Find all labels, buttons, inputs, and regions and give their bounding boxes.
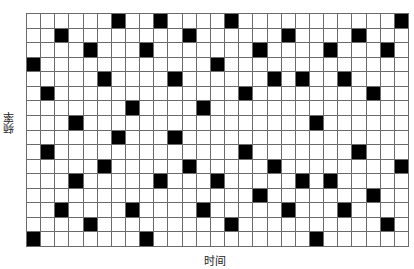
grid-cell [126, 174, 140, 189]
grid-cell [112, 189, 126, 204]
grid-cell [183, 174, 197, 189]
grid-cell [296, 218, 310, 233]
filled-cell [310, 232, 324, 247]
grid-cell [197, 72, 211, 87]
grid-cell [69, 203, 83, 218]
y-axis-label: 频率 [4, 112, 18, 134]
grid-cell [352, 101, 366, 116]
grid-cell [168, 189, 182, 204]
grid-cell [381, 232, 395, 247]
grid-cell [225, 43, 239, 58]
grid-cell [282, 145, 296, 160]
grid-cell [296, 29, 310, 44]
grid-cell [352, 87, 366, 102]
grid-cell [55, 72, 69, 87]
grid-cell [395, 87, 409, 102]
filled-cell [27, 232, 41, 247]
grid-cell [211, 218, 225, 233]
grid-cell [168, 43, 182, 58]
grid-cell [154, 116, 168, 131]
grid-cell [296, 101, 310, 116]
grid-cell [98, 101, 112, 116]
grid-cell [282, 131, 296, 146]
grid-cell [395, 145, 409, 160]
grid-cell [211, 131, 225, 146]
filled-cell [168, 72, 182, 87]
grid-cell [140, 203, 154, 218]
grid-cell [296, 189, 310, 204]
grid-cell [282, 14, 296, 29]
grid-cell [296, 58, 310, 73]
grid-cell [395, 101, 409, 116]
grid-cell [310, 87, 324, 102]
grid-cell [126, 116, 140, 131]
grid-cell [197, 14, 211, 29]
grid-cell [395, 72, 409, 87]
grid-cell [69, 87, 83, 102]
grid-cell [126, 189, 140, 204]
grid-cell [367, 14, 381, 29]
grid-cell [338, 232, 352, 247]
grid-cell [310, 131, 324, 146]
grid-cell [197, 160, 211, 175]
grid-cell [197, 29, 211, 44]
grid-cell [225, 189, 239, 204]
grid-cell [197, 145, 211, 160]
grid-cell [310, 14, 324, 29]
grid-cell [225, 87, 239, 102]
grid-cell [41, 203, 55, 218]
filled-cell [225, 14, 239, 29]
grid-cell [381, 116, 395, 131]
grid-cell [168, 116, 182, 131]
grid-cell [395, 203, 409, 218]
filled-cell [367, 189, 381, 204]
grid-cell [126, 160, 140, 175]
grid-cell [367, 101, 381, 116]
grid-cell [352, 131, 366, 146]
grid-cell [84, 72, 98, 87]
grid-cell [69, 72, 83, 87]
grid-cell [84, 203, 98, 218]
grid-cell [69, 29, 83, 44]
filled-cell [168, 131, 182, 146]
grid-cell [98, 203, 112, 218]
grid-cell [395, 218, 409, 233]
grid-cell [84, 145, 98, 160]
grid-cell [98, 58, 112, 73]
grid-cell [27, 174, 41, 189]
grid-cell [352, 58, 366, 73]
grid-cell [381, 101, 395, 116]
grid-cell [381, 131, 395, 146]
grid-cell [112, 145, 126, 160]
filled-cell [395, 160, 409, 175]
grid-cell [253, 72, 267, 87]
grid-cell [324, 116, 338, 131]
grid-cell [69, 101, 83, 116]
grid-cell [324, 189, 338, 204]
grid-cell [154, 72, 168, 87]
grid-cell [253, 87, 267, 102]
grid-cell [211, 14, 225, 29]
grid-cell [239, 160, 253, 175]
grid-cell [55, 160, 69, 175]
grid-cell [352, 14, 366, 29]
grid-cell [282, 218, 296, 233]
grid-cell [338, 218, 352, 233]
grid-cell [211, 189, 225, 204]
grid-cell [381, 160, 395, 175]
grid-cell [197, 58, 211, 73]
grid-cell [310, 218, 324, 233]
grid-cell [69, 131, 83, 146]
grid-cell [168, 101, 182, 116]
grid-cell [140, 189, 154, 204]
grid-cell [55, 218, 69, 233]
grid-cell [211, 160, 225, 175]
grid-cell [55, 131, 69, 146]
grid-cell [154, 203, 168, 218]
grid-cell [197, 189, 211, 204]
grid-cell [296, 87, 310, 102]
grid-cell [84, 14, 98, 29]
grid-cell [324, 160, 338, 175]
filled-cell [197, 203, 211, 218]
grid-cell [239, 218, 253, 233]
